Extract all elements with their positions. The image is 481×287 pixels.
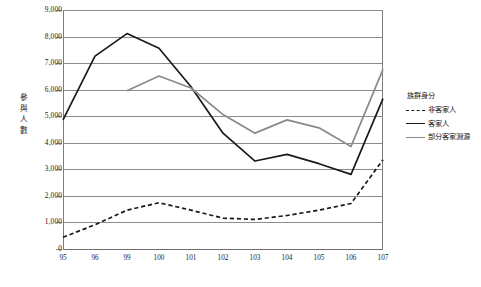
figure-caption [110,276,370,287]
series-line [63,34,383,175]
solid-gray-line-icon [406,134,425,141]
legend-title: 族群身分 [406,91,481,101]
dashed-line-icon [406,107,425,114]
legend-item-partial-hakka[interactable]: 部分客家淵源 [406,132,481,142]
legend-item-label: 客家人 [428,119,449,129]
x-axis-tick-label: 100 [144,254,174,263]
legend-item-label: 非客家人 [428,105,456,115]
x-axis-tick-label: 96 [80,254,110,263]
x-axis-tick-label: 101 [176,254,206,263]
solid-black-line-icon [406,120,425,127]
legend-item-label: 部分客家淵源 [428,132,470,142]
legend-item-non-hakka[interactable]: 非客家人 [406,105,481,115]
line-chart: 9,0008,0007,0006,0005,0004,0003,0002,000… [0,0,481,287]
x-axis-tick-label: 102 [208,254,238,263]
x-axis-tick-label: 107 [368,254,398,263]
x-axis-tick-label: 104 [272,254,302,263]
x-axis-tick-label: 95 [48,254,78,263]
series-line [127,69,383,146]
series-line [63,160,383,238]
x-axis-tick-label: 106 [336,254,366,263]
x-axis-tick-label: 99 [112,254,142,263]
x-axis-tick-label: 103 [240,254,270,263]
x-axis-tick-label: 105 [304,254,334,263]
legend: 族群身分 非客家人 客家人 部分客家淵源 [406,91,481,146]
legend-item-hakka[interactable]: 客家人 [406,119,481,129]
